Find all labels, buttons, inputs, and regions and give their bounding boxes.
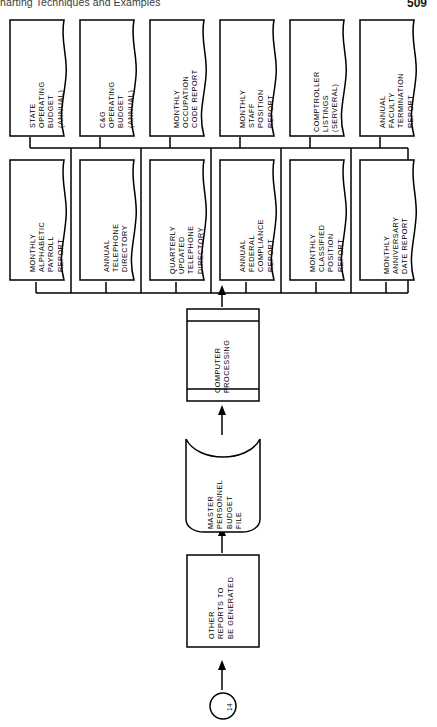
document-label: MONTHLY ALPHABETIC PAYROLL REPORT xyxy=(28,222,65,272)
node-master-personnel-budget-file: MASTER PERSONNEL BUDGET FILE xyxy=(182,435,264,535)
document-label: MONTHLY STAFF POSITION REPORT xyxy=(238,89,275,128)
connector-14: 14 xyxy=(207,690,239,722)
document-monthly-classified-position-report: MONTHLY CLASSIFIED POSITION REPORT xyxy=(288,158,350,282)
document-label: C&G OPERATING BUDGET (ANNUAL) xyxy=(98,81,135,128)
node-label: COMPUTER PROCESSING xyxy=(213,340,232,393)
running-head-title: harting Techniques and Examples xyxy=(0,0,161,8)
document-state-operating-budget: STATE OPERATING BUDGET (ANNUAL) xyxy=(8,18,70,138)
document-comptroller-listings: COMPTROLLER LISTINGS (SERVERAL) xyxy=(288,18,350,138)
page-number: 509 xyxy=(407,0,427,10)
document-label: MONTHLY CLASSIFIED POSITION REPORT xyxy=(308,225,345,272)
document-label: QUARTERLY UPDATED TELEPHONE DIRECTORY xyxy=(168,226,205,275)
document-label: ANNUAL FACULTY TERMINATION REPORT xyxy=(378,73,415,128)
node-label: MASTER PERSONNEL BUDGET FILE xyxy=(206,480,244,529)
document-quarterly-updated-telephone-directory: QUARTERLY UPDATED TELEPHONE DIRECTORY xyxy=(148,158,210,282)
running-head: harting Techniques and Examples 509 xyxy=(0,0,437,14)
document-annual-telephone-directory: ANNUAL TELEPHONE DIRECTORY xyxy=(78,158,140,282)
document-label: ANNUAL TELEPHONE DIRECTORY xyxy=(102,224,130,273)
document-label: COMPTROLLER LISTINGS (SERVERAL) xyxy=(312,71,340,132)
node-label: OTHER REPORTS TO BE GENERATED xyxy=(207,577,235,639)
document-annual-federal-compliance-report: ANNUAL FEDERAL COMPLIANCE REPORT xyxy=(218,158,280,282)
document-monthly-alphabetic-payroll-report: MONTHLY ALPHABETIC PAYROLL REPORT xyxy=(8,158,70,282)
document-monthly-staff-position-report: MONTHLY STAFF POSITION REPORT xyxy=(218,18,280,138)
page-canvas: harting Techniques and Examples 509 xyxy=(0,0,437,727)
document-monthly-anniversary-date-report: MONTHLY ANNIVERSARY DATE REPORT xyxy=(358,158,420,282)
document-annual-faculty-termination-report: ANNUAL FACULTY TERMINATION REPORT xyxy=(358,18,420,138)
document-monthly-occupation-code-report: MONTHLY OCCUPATION CODE REPORT xyxy=(148,18,210,138)
document-label: MONTHLY OCCUPATION CODE REPORT xyxy=(172,69,200,128)
node-computer-processing: COMPUTER PROCESSING xyxy=(185,307,261,403)
document-label: MONTHLY ANNIVERSARY DATE REPORT xyxy=(382,217,410,274)
node-other-reports-to-be-generated: OTHER REPORTS TO BE GENERATED xyxy=(185,553,261,649)
document-cg-operating-budget: C&G OPERATING BUDGET (ANNUAL) xyxy=(78,18,140,138)
document-label: STATE OPERATING BUDGET (ANNUAL) xyxy=(28,81,65,128)
document-label: ANNUAL FEDERAL COMPLIANCE REPORT xyxy=(238,219,275,272)
connector-label: 14 xyxy=(226,703,233,711)
